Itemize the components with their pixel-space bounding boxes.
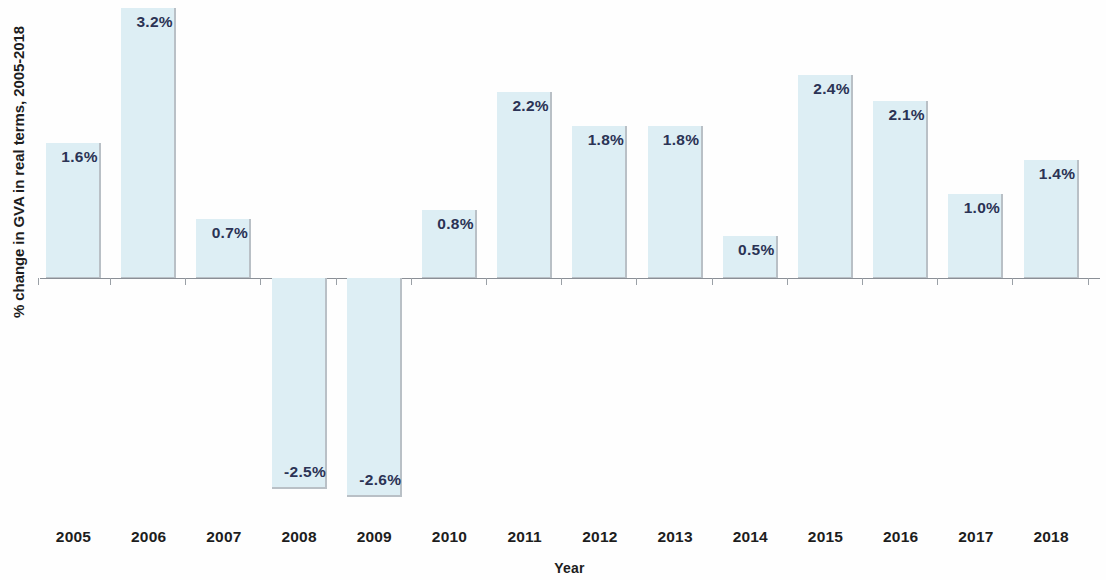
axis-tick: [561, 278, 562, 285]
axis-tick: [1012, 278, 1013, 285]
axis-tick: [110, 278, 111, 285]
value-label-2013: 1.8%: [650, 131, 713, 149]
x-label-2016: 2016: [867, 528, 934, 546]
value-label-2006: 3.2%: [123, 13, 186, 31]
x-label-2008: 2008: [266, 528, 333, 546]
bar-chart: % change in GVA in real terms, 2005-2018…: [0, 0, 1106, 580]
bar-2016: [873, 101, 928, 278]
x-label-2018: 2018: [1018, 528, 1085, 546]
bar-2011: [497, 92, 552, 278]
axis-tick: [185, 278, 186, 285]
axis-tick: [937, 278, 938, 285]
axis-tick: [336, 278, 337, 285]
value-label-2016: 2.1%: [875, 106, 938, 124]
x-label-2017: 2017: [942, 528, 1009, 546]
value-label-2014: 0.5%: [725, 241, 788, 259]
value-label-2009: -2.6%: [349, 471, 412, 489]
x-label-2006: 2006: [115, 528, 182, 546]
value-label-2017: 1.0%: [950, 199, 1013, 217]
value-label-2012: 1.8%: [574, 131, 637, 149]
value-label-2010: 0.8%: [424, 215, 487, 233]
x-label-2012: 2012: [566, 528, 633, 546]
zero-baseline: [40, 278, 1100, 279]
bar-2006: [121, 8, 176, 278]
value-label-2018: 1.4%: [1026, 165, 1089, 183]
bar-2009: [347, 278, 402, 497]
axis-tick: [712, 278, 713, 285]
x-label-2014: 2014: [717, 528, 784, 546]
x-label-2015: 2015: [792, 528, 859, 546]
bar-2008: [272, 278, 327, 489]
x-label-2005: 2005: [40, 528, 107, 546]
x-label-2010: 2010: [416, 528, 483, 546]
axis-tick: [486, 278, 487, 285]
bar-2015: [798, 75, 853, 278]
x-label-2009: 2009: [341, 528, 408, 546]
value-label-2007: 0.7%: [198, 224, 261, 242]
y-axis-title: % change in GVA in real terms, 2005-2018: [6, 26, 32, 446]
axis-tick: [1088, 278, 1089, 285]
axis-tick: [862, 278, 863, 285]
value-label-2015: 2.4%: [800, 80, 863, 98]
axis-tick: [38, 278, 39, 285]
value-label-2005: 1.6%: [48, 148, 111, 166]
axis-tick: [411, 278, 412, 285]
value-label-2011: 2.2%: [499, 97, 562, 115]
axis-tick: [260, 278, 261, 285]
axis-tick: [787, 278, 788, 285]
value-label-2008: -2.5%: [274, 463, 337, 481]
x-label-2011: 2011: [491, 528, 558, 546]
x-label-2007: 2007: [190, 528, 257, 546]
x-axis-title: Year: [40, 560, 1099, 576]
axis-tick: [636, 278, 637, 285]
plot-area: 1.6%3.2%0.7%-2.5%-2.6%0.8%2.2%1.8%1.8%0.…: [40, 0, 1106, 515]
x-label-2013: 2013: [642, 528, 709, 546]
